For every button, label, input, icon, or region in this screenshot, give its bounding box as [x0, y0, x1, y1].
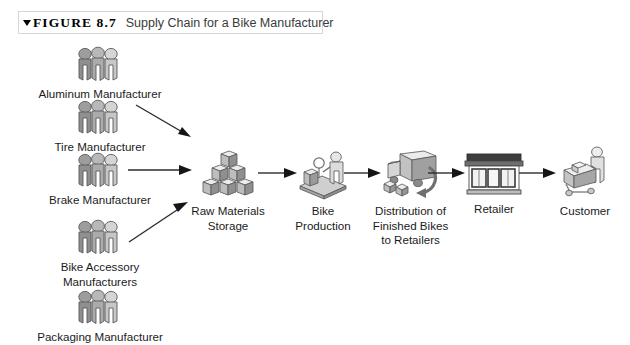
figure-caption-bar: FIGURE 8.7 Supply Chain for a Bike Manuf… [18, 11, 323, 34]
node-customer: Customer [545, 144, 625, 219]
three-people-icon [20, 288, 180, 330]
connector-tire-to-storage [135, 103, 197, 143]
node-label: Packaging Manufacturer [20, 330, 180, 345]
figure-number: FIGURE 8.7 [33, 15, 117, 31]
figure-title: Supply Chain for a Bike Manufacturer [126, 16, 334, 30]
node-label: Customer [545, 204, 625, 219]
triangle-down-icon [23, 20, 31, 26]
node-distribution: Distribution of Finished Bikes to Retail… [358, 148, 463, 248]
node-label: Bike Accessory Manufacturers [20, 260, 180, 289]
node-raw-materials-storage: Raw Materials Storage [178, 150, 278, 233]
node-label: Distribution of Finished Bikes to Retail… [358, 204, 463, 248]
node-bike-production: Bike Production [278, 148, 368, 233]
node-label: Retailer [455, 202, 533, 217]
node-retailer: Retailer [455, 150, 533, 217]
shopping-cart-person-icon [545, 144, 625, 204]
three-people-icon [20, 45, 180, 87]
node-aluminum-manufacturer: Aluminum Manufacturer [20, 45, 180, 102]
node-label: Raw Materials Storage [178, 204, 278, 233]
node-label: Bike Production [278, 204, 368, 233]
node-packaging-manufacturer: Packaging Manufacturer [20, 288, 180, 345]
